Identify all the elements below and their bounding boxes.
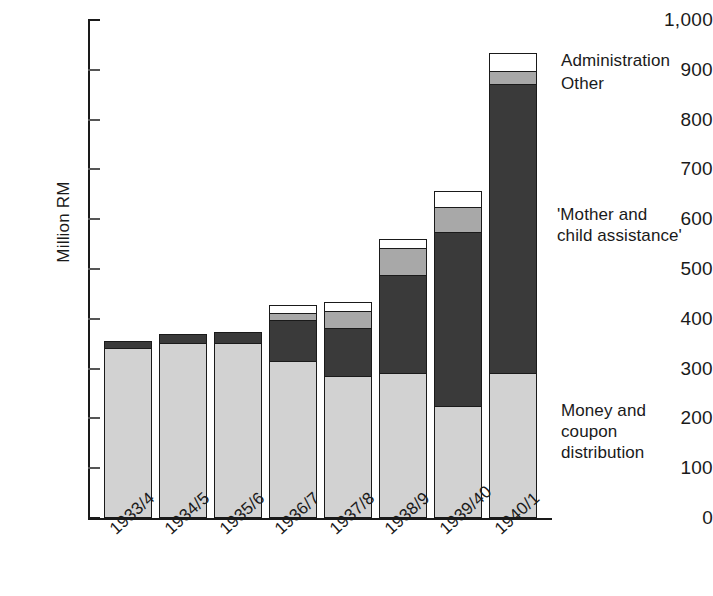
segment-admin xyxy=(325,303,371,311)
segment-mother xyxy=(215,333,261,343)
bar-1940-1[interactable] xyxy=(489,53,537,518)
segment-mother xyxy=(160,335,206,343)
y-tick-label: 500 xyxy=(639,259,713,278)
y-tick-label: 400 xyxy=(639,309,713,328)
segment-mother xyxy=(325,328,371,376)
segment-mother xyxy=(380,275,426,373)
segment-admin xyxy=(435,192,481,207)
bar-1936-7[interactable] xyxy=(269,305,317,518)
segment-other xyxy=(270,313,316,320)
y-tick-label: 200 xyxy=(639,408,713,427)
y-tick-label: 1,000 xyxy=(639,10,713,29)
chart-canvas: Million RM 01002003004005006007008009001… xyxy=(0,0,713,596)
segment-admin xyxy=(270,306,316,313)
bar-1938-9[interactable] xyxy=(379,239,427,518)
y-tick-label: 800 xyxy=(639,110,713,129)
plot-area xyxy=(90,20,550,518)
annotation-mother-child: 'Mother and child assistance' xyxy=(557,204,682,246)
y-axis-title: Million RM xyxy=(54,152,74,292)
segment-mother xyxy=(490,84,536,373)
segment-admin xyxy=(380,240,426,248)
annotation-other: Other xyxy=(561,73,604,94)
bar-1939-40[interactable] xyxy=(434,191,482,518)
segment-other xyxy=(435,207,481,232)
segment-admin xyxy=(490,54,536,71)
y-tick-label: 100 xyxy=(639,458,713,477)
annotation-money-coupon: Money and coupon distribution xyxy=(561,400,646,463)
segment-other xyxy=(325,311,371,328)
annotation-administration: Administration xyxy=(561,50,670,71)
segment-mother xyxy=(270,320,316,361)
segment-other xyxy=(380,248,426,275)
y-tick-label: 0 xyxy=(639,508,713,527)
x-axis-line xyxy=(88,518,552,520)
y-tick-label: 300 xyxy=(639,359,713,378)
segment-mother xyxy=(435,232,481,406)
bar-1937-8[interactable] xyxy=(324,302,372,518)
y-tick-label: 700 xyxy=(639,159,713,178)
segment-other xyxy=(490,71,536,84)
